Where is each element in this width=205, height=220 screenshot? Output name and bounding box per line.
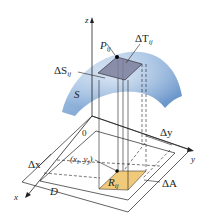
region-d <box>40 131 175 200</box>
origin-label: 0 <box>82 128 87 138</box>
y-axis-label: y <box>190 154 195 164</box>
point-xy-label: (xi, yj) <box>70 154 92 166</box>
delta-a-label: ΔA <box>162 177 177 189</box>
delta-y-label: Δy <box>160 126 173 138</box>
p-label: Pij <box>99 39 111 53</box>
delta-x-label: Δx <box>28 158 41 170</box>
region-d-label: D <box>49 185 58 197</box>
point-xy <box>115 169 119 173</box>
surface-label: S <box>74 88 80 100</box>
delta-t-label: ΔTij <box>135 32 153 46</box>
surface-area-diagram: z Pij ΔTij ΔSij S 0 Δy y (xi, yj) Δx Rij… <box>0 0 205 220</box>
delta-s-label: ΔSij <box>54 64 71 78</box>
z-axis-label: z <box>84 15 89 25</box>
point-p <box>115 55 119 59</box>
subrectangle-rij <box>99 171 146 190</box>
x-axis-label: x <box>13 192 18 202</box>
